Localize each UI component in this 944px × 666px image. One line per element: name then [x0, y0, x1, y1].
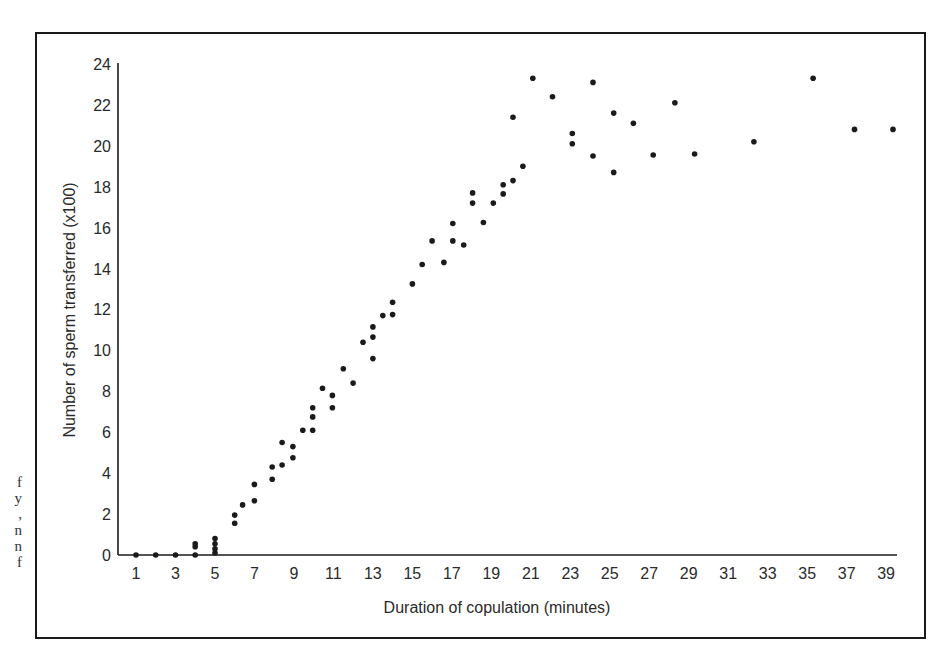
x-tick-label: 3: [171, 565, 180, 582]
x-tick-label: 13: [364, 565, 382, 582]
data-point: [390, 312, 396, 318]
data-point: [212, 536, 218, 542]
x-tick-label: 17: [443, 565, 461, 582]
x-tick-label: 25: [601, 565, 619, 582]
y-tick-label: 6: [102, 424, 111, 441]
data-point: [611, 110, 617, 116]
data-point: [491, 200, 497, 206]
data-point: [461, 242, 467, 248]
data-point: [692, 151, 698, 157]
data-point: [232, 512, 238, 518]
data-point: [290, 444, 296, 450]
data-point: [470, 200, 476, 206]
y-tick-label: 18: [93, 179, 111, 196]
y-tick-label: 2: [102, 506, 111, 523]
x-tick-label: 29: [680, 565, 698, 582]
data-point: [650, 152, 656, 158]
scatter-chart: 024681012141618202224 135791113151719212…: [0, 0, 944, 666]
data-point: [890, 127, 896, 133]
y-tick-label: 20: [93, 138, 111, 155]
data-point: [269, 464, 275, 470]
data-point: [450, 221, 456, 227]
y-tick-label: 10: [93, 342, 111, 359]
data-point: [370, 324, 376, 330]
data-point: [330, 405, 336, 411]
x-tick-label: 19: [482, 565, 500, 582]
y-tick-labels: 024681012141618202224: [93, 56, 111, 564]
x-tick-label: 7: [250, 565, 259, 582]
data-point: [173, 552, 179, 558]
data-point: [370, 356, 376, 362]
x-tick-label: 23: [561, 565, 579, 582]
x-tick-label: 11: [325, 565, 342, 582]
x-tick-label: 27: [640, 565, 658, 582]
x-tick-label: 39: [877, 565, 895, 582]
data-point: [279, 440, 285, 446]
data-point: [419, 262, 425, 268]
y-tick-label: 12: [93, 301, 111, 318]
data-point: [500, 191, 506, 197]
data-point: [672, 100, 678, 106]
data-point: [232, 521, 238, 527]
data-point: [133, 552, 139, 558]
data-point: [370, 334, 376, 340]
y-tick-label: 8: [102, 383, 111, 400]
x-tick-label: 15: [403, 565, 421, 582]
data-point: [360, 339, 366, 345]
data-point: [341, 366, 347, 372]
data-point: [611, 170, 617, 176]
x-axis-label: Duration of copulation (minutes): [384, 599, 611, 616]
data-point: [510, 114, 516, 120]
data-point: [510, 178, 516, 184]
y-tick-label: 14: [93, 261, 111, 278]
y-axis-label: Number of sperm transferred (x100): [61, 182, 78, 437]
data-point: [751, 139, 757, 145]
data-point: [320, 386, 326, 392]
data-point: [550, 94, 556, 100]
x-tick-label: 37: [838, 565, 856, 582]
data-point: [530, 76, 536, 82]
data-point: [481, 220, 487, 226]
x-tick-label: 5: [211, 565, 220, 582]
data-point: [192, 552, 198, 558]
data-points: [133, 76, 896, 558]
data-point: [290, 455, 296, 461]
y-tick-label: 22: [93, 97, 111, 114]
data-point: [212, 546, 218, 552]
data-point: [441, 260, 447, 266]
x-tick-labels: 13579111315171921232527293133353739: [132, 565, 896, 582]
data-point: [380, 313, 386, 319]
data-point: [192, 541, 198, 547]
axes: [118, 63, 897, 555]
data-point: [429, 238, 435, 244]
data-point: [330, 393, 336, 399]
data-point: [631, 121, 637, 127]
x-tick-label: 9: [289, 565, 298, 582]
data-point: [350, 380, 356, 386]
x-tick-label: 31: [719, 565, 737, 582]
x-tick-label: 33: [759, 565, 777, 582]
data-point: [390, 300, 396, 306]
data-point: [520, 164, 526, 170]
data-point: [590, 80, 596, 86]
data-point: [450, 238, 456, 244]
data-point: [240, 502, 246, 508]
data-point: [279, 462, 285, 468]
y-tick-label: 16: [93, 220, 111, 237]
data-point: [570, 131, 576, 137]
y-tick-label: 0: [102, 547, 111, 564]
data-point: [153, 552, 159, 558]
y-tick-label: 24: [93, 56, 111, 73]
y-tick-label: 4: [102, 465, 111, 482]
data-point: [300, 427, 306, 433]
data-point: [590, 153, 596, 159]
data-point: [500, 182, 506, 188]
x-tick-label: 35: [798, 565, 816, 582]
data-point: [570, 141, 576, 147]
data-point: [310, 414, 316, 420]
data-point: [470, 190, 476, 196]
data-point: [252, 498, 258, 504]
x-tick-label: 21: [522, 565, 540, 582]
data-point: [212, 541, 218, 547]
data-point: [410, 281, 416, 287]
